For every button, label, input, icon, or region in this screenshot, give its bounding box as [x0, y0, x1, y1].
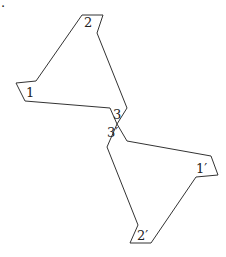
diagram-canvas: . 1 2 3 3′ 1′ 2′ [0, 0, 226, 257]
lower-triangle: 3′ 1′ 2′ [107, 124, 218, 243]
label-2: 2 [84, 15, 92, 30]
label-3-prime: 3′ [107, 125, 118, 140]
label-1: 1 [26, 85, 34, 100]
stray-mark: . [1, 0, 5, 10]
label-2-prime: 2′ [137, 228, 148, 243]
upper-triangle: 1 2 3 [16, 15, 127, 124]
lower-triangle-outline [107, 124, 218, 243]
label-3: 3 [113, 107, 121, 122]
label-1-prime: 1′ [196, 161, 207, 176]
upper-triangle-outline [16, 15, 127, 124]
